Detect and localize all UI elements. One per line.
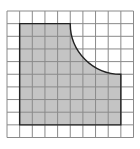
grid-diagram [0, 0, 140, 149]
